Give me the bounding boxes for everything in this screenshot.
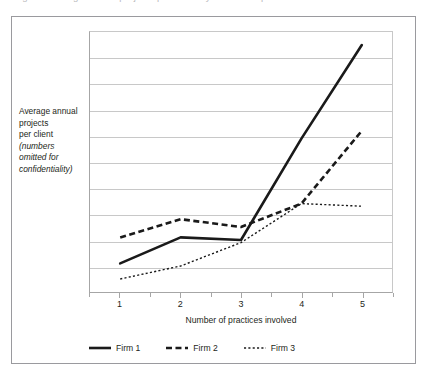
x-axis-tick-label: 3	[226, 299, 256, 309]
figure-root: Figure: Average annual projects per clie…	[0, 0, 428, 373]
y-axis-note-line-3: confidentiality)	[19, 164, 89, 176]
x-axis-tick	[180, 293, 181, 298]
x-axis-tick	[119, 293, 120, 298]
legend-item-firm-1[interactable]: Firm 1	[89, 343, 140, 353]
x-axis-tick	[363, 293, 364, 298]
x-axis-title: Number of practices involved	[89, 315, 393, 325]
legend-swatch-solid-icon	[89, 343, 111, 353]
legend-item-firm-3[interactable]: Firm 3	[244, 343, 295, 353]
x-axis-tick-labels: 12345	[89, 299, 393, 313]
x-axis-minor-tick	[89, 293, 90, 297]
x-axis-tick-label: 1	[104, 299, 134, 309]
x-axis-tick	[302, 293, 303, 298]
caption-cutoff-strip: Figure: Average annual projects per clie…	[0, 0, 428, 9]
legend-label: Firm 1	[116, 343, 140, 353]
legend-label: Firm 2	[193, 343, 217, 353]
legend-swatch-dotted-icon	[244, 343, 266, 353]
plot-area	[89, 31, 393, 293]
series-lines	[90, 32, 392, 292]
y-axis-note-line-2: omitted for	[19, 152, 89, 164]
x-axis-tick	[241, 293, 242, 298]
y-axis-title: Average annual projects per client (numb…	[19, 106, 89, 176]
x-axis-minor-tick	[332, 293, 333, 297]
legend-label: Firm 3	[271, 343, 295, 353]
legend-swatch-dashed-icon	[166, 343, 188, 353]
legend-item-firm-2[interactable]: Firm 2	[166, 343, 217, 353]
y-axis-title-line-2: projects	[19, 118, 89, 130]
x-axis-minor-tick	[393, 293, 394, 297]
x-axis-minor-tick	[271, 293, 272, 297]
x-axis-tick-label: 4	[287, 299, 317, 309]
series-line-firm-2	[120, 131, 362, 238]
y-axis-title-line-1: Average annual	[19, 106, 89, 118]
chart-legend: Firm 1Firm 2Firm 3	[89, 340, 393, 356]
x-axis-minor-tick	[211, 293, 212, 297]
x-axis-tick-label: 2	[165, 299, 195, 309]
x-axis-tick-label: 5	[348, 299, 378, 309]
caption-cutoff-text: Figure: Average annual projects per clie…	[14, 0, 340, 2]
x-axis-minor-tick	[150, 293, 151, 297]
y-axis-note-line-1: (numbers	[19, 141, 89, 153]
series-line-firm-1	[120, 45, 362, 263]
y-axis-title-line-3: per client	[19, 129, 89, 141]
